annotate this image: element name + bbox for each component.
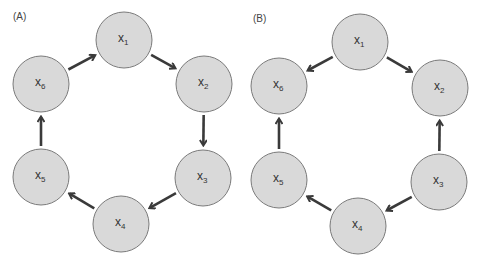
panel-b-edge-x1-to-x2 [387, 57, 412, 71]
panel-a-node-x1: x1 [96, 12, 152, 68]
panel-a-node-x6: x6 [13, 56, 69, 112]
panel-b-edge-x1-to-x6 [308, 57, 333, 70]
panel-a-label: (A) [13, 11, 26, 22]
panel-b-node-x6: x6 [251, 58, 307, 114]
panel-a-edge-x3-to-x4 [150, 193, 176, 208]
panel-b-node-x5: x5 [251, 152, 307, 208]
panel-b-node-x1: x1 [332, 14, 388, 70]
panel-b-node-x3: x3 [411, 154, 467, 210]
causal-graph-diagram: (A) x1x2x3x4x5x6 (B) x1x2x3x4x5x6 [0, 0, 486, 266]
panel-b: (B) x1x2x3x4x5x6 [251, 13, 468, 254]
panel-a-node-x4: x4 [93, 196, 149, 252]
panel-a-edge-x1-to-x2 [151, 55, 175, 68]
panel-b-node-x4: x4 [330, 198, 386, 254]
panel-b-label: (B) [253, 13, 266, 24]
panel-a-node-x2: x2 [176, 56, 232, 112]
panel-b-edge-x3-to-x4 [387, 197, 412, 210]
panel-a-node-x3: x3 [175, 150, 231, 206]
panel-b-node-x2: x2 [412, 60, 468, 116]
panel-b-edge-x4-to-x5 [308, 197, 332, 211]
panel-a-node-x5: x5 [13, 149, 69, 205]
panel-a: (A) x1x2x3x4x5x6 [13, 11, 232, 252]
panel-a-edge-x4-to-x5 [69, 194, 94, 209]
panel-a-edge-x6-to-x1 [68, 55, 94, 69]
